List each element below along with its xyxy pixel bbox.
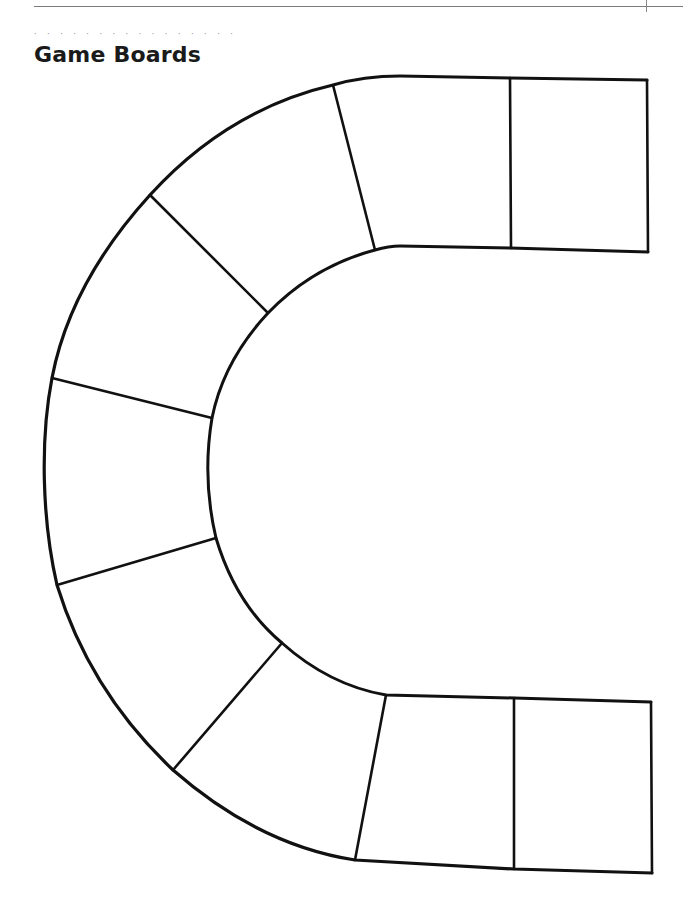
board-inner-edge [208,246,651,702]
board-bottom-end-cap [651,702,652,873]
space-divider [173,643,282,770]
game-board [0,0,683,899]
space-divider [150,195,268,313]
board-outer-edge [44,76,652,873]
space-divider [52,378,212,418]
space-divider [510,78,511,248]
board-top-end-cap [647,80,648,252]
space-divider [333,85,375,250]
space-divider [355,695,386,860]
space-divider [57,538,216,585]
